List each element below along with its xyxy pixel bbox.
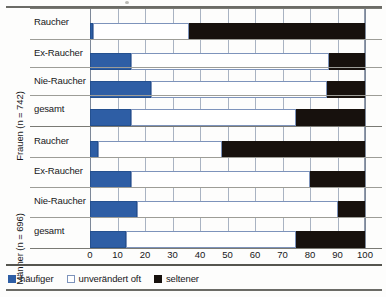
bar-segment-haeufiger: [90, 141, 98, 158]
bar-segment-unveraendert: [131, 171, 310, 188]
x-axis-rule: [6, 264, 382, 266]
row-label-frauen-gesamt: gesamt: [34, 103, 90, 114]
x-tick-label-0: 0: [87, 249, 92, 260]
legend-swatch-icon-seltener: [154, 275, 162, 283]
row-label-maenner-gesamt: gesamt: [34, 225, 90, 236]
row-rule-maenner-3: [30, 217, 382, 218]
row-label-maenner-raucher: Raucher: [34, 135, 90, 146]
legend-label-unveraendert: unverändert oft: [79, 273, 141, 284]
bar-maenner-gesamt: [90, 231, 365, 248]
bar-segment-haeufiger: [90, 109, 131, 126]
stacked-bar-chart-figure: Raucher Ex-Raucher Nie-Raucher gesamt Ra…: [0, 0, 386, 297]
legend-swatch-icon-haeufiger: [8, 275, 16, 283]
row-rule-maenner-2: [30, 187, 382, 188]
row-label-maenner-nie-raucher: Nie-Raucher: [34, 195, 90, 206]
bar-maenner-raucher: [90, 141, 365, 158]
bar-segment-unveraendert: [137, 201, 338, 218]
row-label-maenner-ex-raucher: Ex-Raucher: [34, 165, 90, 176]
chart-legend: häufigerunverändert oftseltener: [8, 273, 206, 284]
bar-segment-seltener: [222, 141, 365, 158]
bar-segment-seltener: [296, 109, 365, 126]
bar-segment-seltener: [338, 201, 366, 218]
x-tick-label-40: 40: [195, 249, 206, 260]
plot-area: [90, 9, 365, 249]
legend-label-haeufiger: häufiger: [20, 273, 54, 284]
bar-maenner-ex-raucher: [90, 171, 365, 188]
bar-segment-unveraendert: [98, 141, 222, 158]
x-tick-label-70: 70: [277, 249, 288, 260]
row-rule-maenner-1: [30, 157, 382, 158]
x-tick-label-90: 90: [332, 249, 343, 260]
legend-item-2: seltener: [154, 273, 199, 284]
group-label-frauen: Frauen (n = 742): [14, 66, 25, 186]
bar-segment-haeufiger: [90, 231, 126, 248]
bar-segment-seltener: [296, 231, 365, 248]
legend-label-seltener: seltener: [166, 273, 199, 284]
x-axis: 0102030405060708090100: [90, 249, 365, 265]
legend-swatch-icon-unveraendert: [67, 275, 75, 283]
row-rule-frauen-2: [30, 67, 382, 68]
x-tick-label-100: 100: [357, 249, 373, 260]
group-rule-middle: [30, 126, 382, 127]
bar-frauen-gesamt: [90, 109, 365, 126]
row-label-frauen-raucher: Raucher: [34, 16, 90, 27]
bottom-divider-rule: [6, 289, 382, 291]
bar-segment-seltener: [189, 23, 365, 40]
scan-artifact-speck: [125, 1, 129, 4]
bar-segment-haeufiger: [90, 201, 137, 218]
bar-segment-unveraendert: [131, 109, 296, 126]
legend-item-1: unverändert oft: [67, 273, 141, 284]
bar-segment-unveraendert: [126, 231, 297, 248]
x-tick-label-60: 60: [250, 249, 261, 260]
bar-segment-seltener: [310, 171, 365, 188]
row-rule-frauen-3: [30, 95, 382, 96]
gridline-100: [365, 9, 366, 249]
row-label-frauen-ex-raucher: Ex-Raucher: [34, 47, 90, 58]
x-tick-label-30: 30: [167, 249, 178, 260]
group-rule-top: [30, 8, 382, 9]
bar-frauen-raucher: [90, 23, 365, 40]
x-tick-label-20: 20: [140, 249, 151, 260]
bar-segment-haeufiger: [90, 171, 131, 188]
x-tick-label-10: 10: [112, 249, 123, 260]
bar-segment-unveraendert: [93, 23, 189, 40]
bar-maenner-nie-raucher: [90, 201, 365, 218]
x-tick-label-80: 80: [305, 249, 316, 260]
legend-item-0: häufiger: [8, 273, 54, 284]
row-label-frauen-nie-raucher: Nie-Raucher: [34, 75, 90, 86]
x-tick-label-50: 50: [222, 249, 233, 260]
row-rule-frauen-1: [30, 39, 382, 40]
